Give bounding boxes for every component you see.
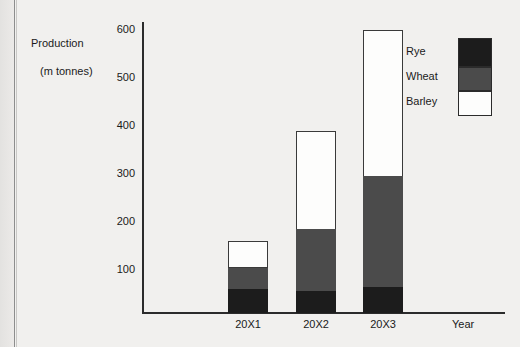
chart-legend: Rye Wheat Barley xyxy=(406,38,496,118)
bar-20X2-segment-barley[interactable] xyxy=(296,131,336,239)
x-axis-title: Year xyxy=(452,318,502,330)
y-axis-title-line1: Production xyxy=(31,37,84,49)
legend-label-rye: Rye xyxy=(406,45,454,57)
bar-20X3-segment-barley[interactable] xyxy=(363,30,403,178)
y-tick-500: 500 xyxy=(101,71,135,83)
bar-20X1-segment-rye[interactable] xyxy=(228,289,268,313)
y-tick-600: 600 xyxy=(101,23,135,35)
legend-swatch-barley xyxy=(458,91,492,116)
y-tick-300: 300 xyxy=(101,167,135,179)
bar-20X2[interactable] xyxy=(296,0,336,313)
bar-20X3-segment-rye[interactable] xyxy=(363,287,403,313)
x-tick-20X2: 20X2 xyxy=(286,318,346,330)
bar-20X3[interactable] xyxy=(363,0,403,313)
legend-swatch-stack xyxy=(458,38,492,116)
y-tick-100: 100 xyxy=(101,263,135,275)
x-tick-20X1: 20X1 xyxy=(218,318,278,330)
stacked-bar-chart: Production (m tonnes) 600 500 400 300 20… xyxy=(0,0,520,347)
y-axis-line xyxy=(142,22,144,314)
legend-swatch-rye xyxy=(458,38,492,67)
bar-20X1-segment-barley[interactable] xyxy=(228,241,268,268)
legend-swatch-wheat xyxy=(458,67,492,91)
bar-20X2-segment-rye[interactable] xyxy=(296,291,336,313)
bar-20X1-segment-wheat[interactable] xyxy=(228,268,268,291)
legend-label-barley: Barley xyxy=(406,95,454,107)
y-tick-400: 400 xyxy=(101,119,135,131)
x-tick-20X3: 20X3 xyxy=(353,318,413,330)
bar-20X3-segment-wheat[interactable] xyxy=(363,176,403,287)
y-tick-200: 200 xyxy=(101,215,135,227)
legend-label-wheat: Wheat xyxy=(406,70,454,82)
bar-20X2-segment-wheat[interactable] xyxy=(296,229,336,291)
scanned-page: Production (m tonnes) 600 500 400 300 20… xyxy=(0,0,520,347)
bar-20X1[interactable] xyxy=(228,0,268,313)
